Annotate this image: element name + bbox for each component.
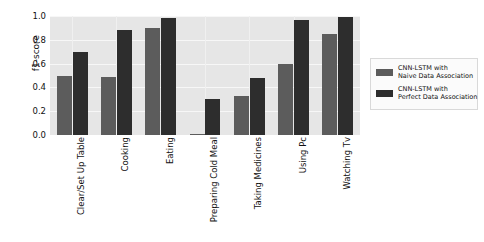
y-tick-label: 0.2	[22, 106, 46, 116]
x-tick-label: Using Pc	[298, 137, 308, 173]
y-tick-label: 1.0	[22, 11, 46, 21]
x-tick-label: Watching Tv	[342, 137, 352, 190]
bar	[57, 76, 72, 136]
y-tick-label: 0.4	[22, 82, 46, 92]
legend: CNN-LSTM with Naive Data Association CNN…	[370, 58, 478, 110]
bar	[338, 17, 353, 135]
legend-entry-perfect: CNN-LSTM with Perfect Data Association	[376, 85, 473, 101]
x-axis-tick-labels: Clear/Set Up TableCookingEatingPreparing…	[50, 137, 360, 237]
legend-label-naive-line1: CNN-LSTM with	[398, 64, 473, 72]
bar	[294, 20, 309, 135]
bar	[322, 34, 337, 135]
bar	[250, 78, 265, 135]
y-tick-label: 0.6	[22, 59, 46, 69]
bar	[117, 30, 132, 135]
y-tick-label: 0.8	[22, 35, 46, 45]
bar	[161, 18, 176, 135]
x-tick-label: Cooking	[120, 137, 130, 171]
bar	[73, 52, 88, 135]
bar	[278, 64, 293, 135]
bar	[234, 96, 249, 135]
x-tick-label: Clear/Set Up Table	[76, 137, 86, 215]
legend-label-naive: CNN-LSTM with Naive Data Association	[398, 64, 473, 80]
plot-area	[50, 16, 360, 135]
y-axis-tick-labels: 1.00.80.60.40.20.0	[18, 0, 46, 242]
bar	[190, 134, 205, 135]
bar	[205, 99, 220, 135]
x-tick-label: Preparing Cold Meal	[209, 137, 219, 222]
bar	[145, 28, 160, 135]
legend-label-perfect-line2: Perfect Data Association	[398, 93, 477, 101]
figure-canvas: f1-score 1.00.80.60.40.20.0 Clear/Set Up…	[0, 0, 484, 242]
legend-label-perfect: CNN-LSTM with Perfect Data Association	[398, 85, 477, 101]
legend-entry-naive: CNN-LSTM with Naive Data Association	[376, 64, 473, 80]
legend-swatch-perfect	[376, 90, 393, 97]
y-tick-label: 0.0	[22, 130, 46, 140]
bar	[101, 77, 116, 135]
x-tick-label: Eating	[165, 137, 175, 164]
legend-label-naive-line2: Naive Data Association	[398, 72, 473, 80]
legend-swatch-naive	[376, 69, 393, 76]
legend-label-perfect-line1: CNN-LSTM with	[398, 85, 477, 93]
x-tick-label: Taking Medicines	[253, 137, 263, 209]
